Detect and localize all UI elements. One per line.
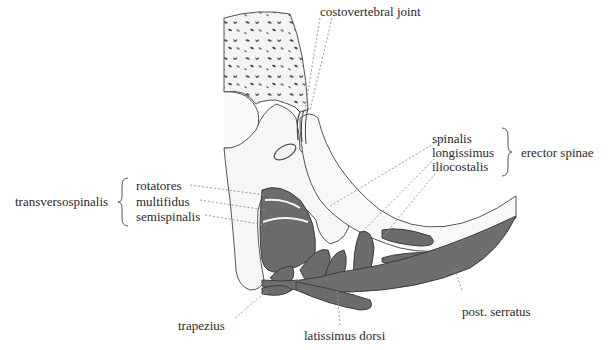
label-costovertebral-joint: costovertebral joint: [320, 4, 421, 19]
label-longissimus: longissimus: [432, 145, 494, 160]
label-rotatores: rotatores: [136, 178, 181, 193]
label-erector-spinae: erector spinae: [521, 145, 594, 160]
label-iliocostalis: iliocostalis: [432, 159, 488, 174]
anatomy-illustration: [0, 0, 611, 350]
label-transversospinalis: transversospinalis: [15, 194, 108, 209]
label-semispinalis: semispinalis: [136, 209, 200, 224]
label-multifidus: multifidus: [136, 194, 189, 209]
label-post-serratus: post. serratus: [462, 304, 531, 319]
label-spinalis: spinalis: [432, 131, 472, 146]
label-latissimus-dorsi: latissimus dorsi: [304, 328, 385, 343]
label-trapezius: trapezius: [178, 318, 225, 333]
